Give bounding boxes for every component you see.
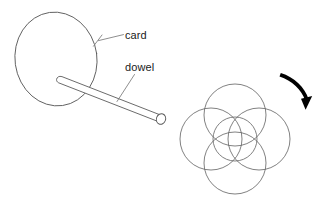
arrow-head (301, 96, 312, 110)
card-leader-tick (94, 35, 103, 46)
curved-arrow-icon (280, 73, 313, 110)
card-outline (9, 7, 103, 111)
card-leader-segment (99, 35, 124, 41)
card-label: card (125, 30, 147, 41)
dowel-leader-segment (117, 75, 135, 102)
diagram-svg (0, 0, 323, 209)
figure-canvas: card dowel (0, 0, 323, 209)
dowel-leader-line (117, 75, 135, 102)
rosette-circle-center (213, 117, 257, 161)
ellipse-card-icon (9, 7, 103, 111)
dowel-label: dowel (125, 62, 154, 73)
card-leader-line (94, 35, 124, 47)
arrow-arc (280, 73, 309, 101)
circle-rosette-icon (180, 84, 290, 194)
